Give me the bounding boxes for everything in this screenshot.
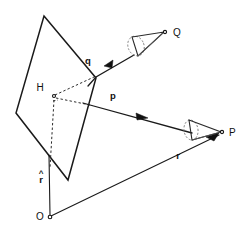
point-h-dot (53, 95, 56, 98)
label-point-q: Q (173, 27, 181, 38)
vector-p-group: p (83, 90, 192, 133)
cone-q-body (132, 32, 164, 56)
figure-root: q Q p P H (0, 0, 240, 230)
label-point-h: H (36, 82, 43, 93)
point-h-group: H (36, 82, 55, 98)
vector-diagram: q Q p P H (0, 0, 240, 230)
label-vector-r: r (176, 150, 180, 161)
vector-r-hat-group: r ^ (39, 155, 50, 215)
cone-q-base-ellipse (125, 34, 147, 58)
vector-r-hat-line (49, 155, 50, 215)
label-point-p: P (229, 127, 236, 138)
point-o-dot (48, 215, 52, 219)
label-vector-r-hat-accent: ^ (39, 169, 44, 178)
label-point-o: O (36, 211, 44, 222)
construction-dashed-lines (50, 77, 94, 168)
cone-at-q: Q (125, 27, 181, 58)
vector-q-group: q (85, 55, 134, 86)
point-q-dot (163, 30, 166, 33)
label-vector-q: q (85, 55, 91, 66)
vector-r-line (51, 135, 219, 216)
vector-p-arrowhead (136, 113, 148, 120)
vector-r-group: r (51, 133, 219, 216)
point-p-dot (220, 130, 223, 133)
vector-q-arrowhead (104, 60, 113, 68)
label-vector-p: p (110, 90, 116, 101)
